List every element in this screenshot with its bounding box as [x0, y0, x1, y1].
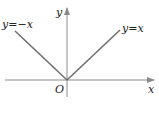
- origin-label: O: [55, 83, 64, 96]
- label-y-equals-negative-x: y=−x: [1, 18, 34, 31]
- line-y-equals-negative-x: [15, 31, 67, 80]
- coordinate-diagram: y x O y=−x y=x: [0, 0, 159, 114]
- x-axis-label: x: [148, 83, 155, 96]
- label-y-equals-x: y=x: [121, 22, 144, 35]
- line-y-equals-x: [67, 30, 120, 80]
- y-axis-label: y: [55, 6, 63, 19]
